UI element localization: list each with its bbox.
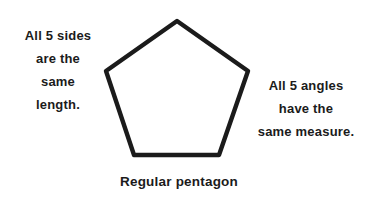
sides-annotation-line-4: length.	[6, 93, 110, 116]
pentagon-shape	[106, 21, 248, 155]
angles-annotation-line-2: have the	[243, 97, 369, 120]
sides-annotation-line-1: All 5 sides	[6, 24, 110, 47]
sides-annotation-line-3: same	[6, 70, 110, 93]
sides-annotation-line-2: are the	[6, 47, 110, 70]
sides-annotation: All 5 sides are the same length.	[6, 24, 110, 116]
figure-caption: Regular pentagon	[104, 172, 254, 191]
diagram-canvas: All 5 sides are the same length. All 5 a…	[0, 0, 371, 203]
angles-annotation-line-3: same measure.	[243, 120, 369, 143]
angles-annotation-line-1: All 5 angles	[243, 74, 369, 97]
angles-annotation: All 5 angles have the same measure.	[243, 74, 369, 143]
